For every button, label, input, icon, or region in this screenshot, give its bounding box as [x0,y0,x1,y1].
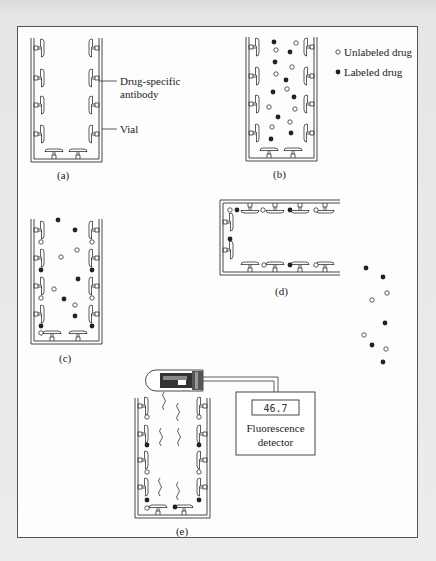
antibody-callout-line2: antibody [120,88,159,100]
fluorescence-detector: 46.7 Fluorescence detector [236,392,315,455]
antibodies-c [34,221,99,341]
panel-c: (c) [31,218,102,365]
unlabeled-drug-icon [336,50,340,54]
panel-a: Drug-specific antibody Vial (a) [31,38,181,182]
bound-drugs-e [145,415,202,510]
free-drugs-c [52,218,81,319]
detector-label-line1: Fluorescence [246,422,304,434]
legend-labeled: Labeled drug [344,66,403,78]
vial-callout: Vial [120,123,138,135]
antibody-callout-line1: Drug-specific [120,75,181,87]
bound-drugs-c [39,240,95,335]
panel-label-e: (e) [176,525,189,538]
antibodies-e [138,397,207,515]
washed-drugs [362,266,389,365]
antibodies-a [34,39,99,159]
panel-label-a: (a) [57,169,70,182]
light-source-icon [146,370,204,391]
fluorescence-emission [159,392,181,500]
antibodies-d [223,203,334,272]
labeled-drug-icon [336,70,341,75]
panel-e: 46.7 Fluorescence detector (e) [135,370,315,538]
drug-molecules-b [267,40,298,142]
panel-label-b: (b) [273,168,286,181]
panel-label-d: (d) [275,285,288,298]
legend: Unlabeled drug Labeled drug [336,46,413,78]
detector-reading: 46.7 [263,403,287,414]
antibodies-b [249,38,314,158]
panel-d: (d) [220,200,340,298]
panel-b: Unlabeled drug Labeled drug (b) [246,37,413,181]
bound-drugs-d [228,208,319,268]
detector-label-line2: detector [258,436,294,448]
immunoassay-diagram: Drug-specific antibody Vial (a) [0,0,436,561]
legend-unlabeled: Unlabeled drug [344,46,413,58]
panel-label-c: (c) [59,352,72,365]
detector-cable [203,377,278,392]
